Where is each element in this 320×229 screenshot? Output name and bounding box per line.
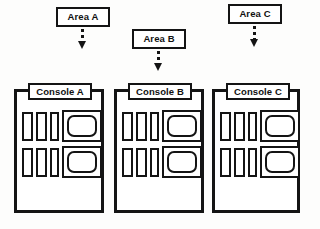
monitor-screen-icon	[167, 151, 197, 173]
dashed-down-arrow-icon-c	[250, 26, 259, 47]
arrow-stem	[81, 29, 84, 41]
monitor-screen-icon	[67, 115, 97, 137]
monitor-screen-icon	[67, 151, 97, 173]
console-label-plate-b: Console B	[128, 83, 192, 100]
console-control-module	[22, 148, 33, 177]
console-control-module	[150, 148, 159, 177]
console-label-text: Console B	[136, 87, 184, 97]
area-label-box-a: Area A	[56, 7, 110, 27]
area-label-box-c: Area C	[228, 4, 282, 24]
console-control-module	[36, 112, 47, 141]
console-control-module	[36, 148, 47, 177]
monitor-screen-icon	[265, 115, 295, 137]
console-control-module	[50, 148, 59, 177]
diagram-canvas: Area A Area B Area C Console A Console B…	[0, 0, 320, 229]
area-label-text: Area A	[68, 12, 99, 22]
console-control-module	[234, 112, 245, 141]
console-control-module	[50, 112, 59, 141]
arrow-stem	[157, 51, 160, 63]
area-label-box-b: Area B	[132, 29, 186, 49]
console-monitor	[162, 146, 202, 178]
console-label-text: Console A	[36, 87, 84, 97]
monitor-screen-icon	[167, 115, 197, 137]
console-control-module	[136, 148, 147, 177]
console-monitor	[62, 110, 102, 142]
arrow-head	[154, 63, 162, 71]
console-control-module	[150, 112, 159, 141]
arrow-stem	[253, 26, 256, 39]
console-monitor	[260, 146, 300, 178]
console-label-plate-a: Console A	[28, 83, 92, 100]
console-monitor	[162, 110, 202, 142]
console-label-text: Console C	[234, 87, 282, 97]
console-control-module	[234, 148, 245, 177]
area-label-text: Area C	[239, 9, 270, 19]
dashed-down-arrow-icon-a	[78, 29, 87, 49]
console-control-module	[22, 112, 33, 141]
console-monitor	[62, 146, 102, 178]
console-control-module	[136, 112, 147, 141]
console-monitor	[260, 110, 300, 142]
arrow-head	[78, 41, 86, 49]
console-control-module	[248, 148, 257, 177]
console-control-module	[122, 148, 133, 177]
arrow-head	[250, 39, 258, 47]
console-control-module	[220, 148, 231, 177]
monitor-screen-icon	[265, 151, 295, 173]
area-label-text: Area B	[143, 34, 174, 44]
console-control-module	[122, 112, 133, 141]
console-control-module	[248, 112, 257, 141]
dashed-down-arrow-icon-b	[154, 51, 163, 71]
console-control-module	[220, 112, 231, 141]
console-label-plate-c: Console C	[226, 83, 290, 100]
